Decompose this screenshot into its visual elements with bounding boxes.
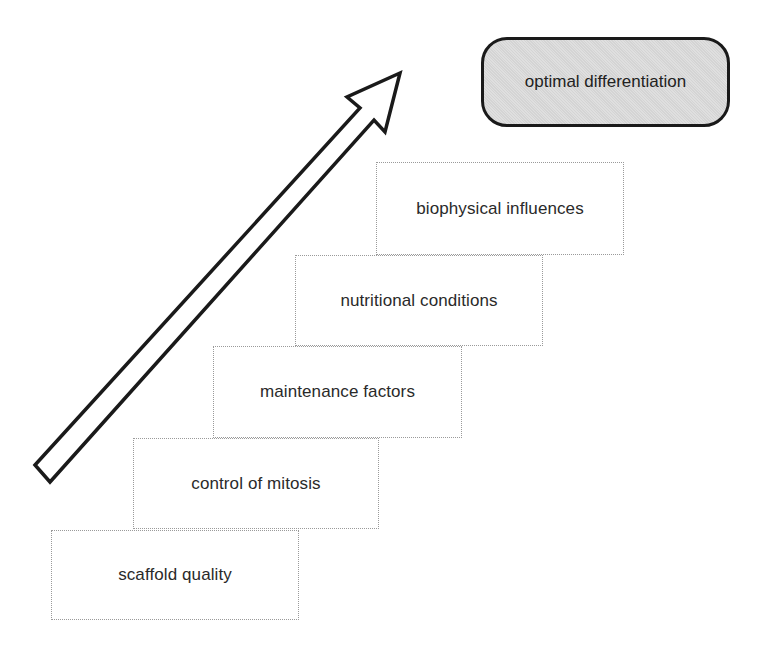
step-label: control of mitosis xyxy=(191,474,320,494)
step-label: scaffold quality xyxy=(118,565,232,585)
step-label: nutritional conditions xyxy=(340,291,497,311)
goal-box-optimal-differentiation: optimal differentiation xyxy=(481,37,730,127)
step-scaffold-quality: scaffold quality xyxy=(51,530,299,620)
step-nutritional-conditions: nutritional conditions xyxy=(295,255,543,346)
step-label: biophysical influences xyxy=(416,199,584,219)
goal-label: optimal differentiation xyxy=(525,72,686,92)
step-control-of-mitosis: control of mitosis xyxy=(133,438,379,529)
step-label: maintenance factors xyxy=(260,382,415,402)
step-biophysical-influences: biophysical influences xyxy=(376,162,624,255)
step-maintenance-factors: maintenance factors xyxy=(213,346,462,438)
